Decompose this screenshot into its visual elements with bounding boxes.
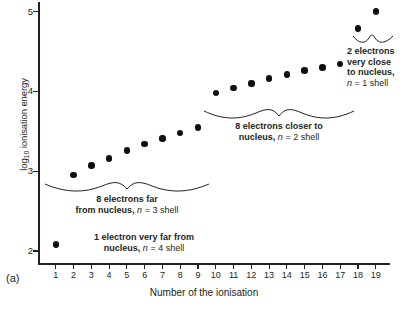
x-tick-label-9: 9 [190,270,206,280]
annotation-shell-n2: 8 electrons closer to nucleus, n = 2 she… [199,121,359,142]
annotation-shell-n3-line2-bold: from nucleus, [76,205,135,215]
x-tick-9 [197,264,198,269]
x-tick-label-2: 2 [66,270,82,280]
data-point-6 [141,141,147,147]
x-tick-5 [126,264,127,269]
x-tick-label-12: 12 [243,270,259,280]
annotation-shell-n4-line2-bold: nucleus, [104,243,141,253]
annotation-shell-n1: 2 electrons very close to nucleus, n = 1… [347,46,407,88]
y-axis-label-subscript: 10 [23,151,30,159]
x-tick-3 [91,264,92,269]
x-tick-7 [162,264,163,269]
data-point-4 [106,155,112,161]
x-tick-label-14: 14 [279,270,295,280]
x-tick-label-16: 16 [314,270,330,280]
x-tick-label-4: 4 [101,270,117,280]
x-tick-2 [73,264,74,269]
annotation-shell-n3: 8 electrons far from nucleus, n = 3 shel… [47,194,207,215]
y-tick-5 [33,11,39,12]
x-tick-label-15: 15 [297,270,313,280]
x-tick-16 [322,264,323,269]
data-point-17 [337,61,343,67]
data-point-13 [266,75,272,81]
y-tick-label-2: 2 [22,246,33,256]
brace-n2 [203,107,355,121]
x-tick-13 [269,264,270,269]
data-point-11 [230,85,236,91]
x-tick-17 [340,264,341,269]
x-tick-6 [144,264,145,269]
x-tick-10 [215,264,216,269]
annotation-shell-n4-line2-rest: = 4 shell [148,243,184,253]
x-tick-8 [180,264,181,269]
x-tick-18 [357,264,358,269]
data-point-16 [319,64,325,70]
x-tick-1 [55,264,56,269]
data-point-2 [70,172,76,178]
ionisation-energy-chart: log10 ionisation energy 2345 12345678910… [0,0,408,312]
x-tick-label-17: 17 [332,270,348,280]
x-axis-label: Number of the ionisation [0,287,408,298]
data-point-15 [301,67,307,73]
x-tick-12 [251,264,252,269]
y-tick-label-4: 4 [22,86,33,96]
data-point-1 [53,241,59,247]
caption-sliver [8,303,400,310]
y-tick-4 [33,91,39,92]
y-tick-3 [33,171,39,172]
x-tick-label-10: 10 [208,270,224,280]
annotation-shell-n4: 1 electron very far from nucleus, n = 4 … [64,232,224,253]
data-point-7 [159,135,165,141]
x-tick-11 [233,264,234,269]
x-tick-label-6: 6 [137,270,153,280]
annotation-shell-n2-line1: 8 electrons closer to [235,121,323,131]
x-tick-19 [375,264,376,269]
data-point-3 [88,162,94,168]
annotation-shell-n4-line1: 1 electron very far from [94,232,194,242]
x-tick-14 [286,264,287,269]
data-point-10 [213,90,219,96]
data-point-12 [248,80,254,86]
y-tick-2 [33,250,39,251]
brace-n3 [44,180,210,194]
annotation-shell-n2-line2-rest: = 2 shell [283,132,319,142]
data-point-19 [373,8,379,14]
x-tick-label-19: 19 [368,270,384,280]
annotation-shell-n2-line2-bold: nucleus, [239,132,276,142]
x-tick-label-13: 13 [261,270,277,280]
annotation-shell-n3-line1: 8 electrons far [96,194,158,204]
x-tick-label-11: 11 [226,270,242,280]
x-tick-label-8: 8 [172,270,188,280]
x-tick-label-5: 5 [119,270,135,280]
x-tick-label-3: 3 [83,270,99,280]
y-tick-label-3: 3 [22,166,33,176]
y-tick-label-5: 5 [22,7,33,17]
x-tick-15 [304,264,305,269]
x-tick-label-7: 7 [154,270,170,280]
x-tick-label-1: 1 [48,270,64,280]
annotation-shell-n1-line3: to nucleus, [347,67,395,77]
data-point-18 [355,25,361,31]
panel-label: (a) [6,272,19,284]
data-point-5 [124,147,130,153]
annotation-shell-n3-line2-rest: = 3 shell [142,205,178,215]
data-point-14 [284,71,290,77]
y-axis-line [38,2,40,264]
annotation-shell-n1-line2: very close [347,57,391,67]
x-tick-4 [109,264,110,269]
x-tick-label-18: 18 [350,270,366,280]
annotation-shell-n1-line1: 2 electrons [347,46,395,56]
brace-n1 [352,33,394,45]
data-point-8 [177,130,183,136]
annotation-shell-n1-line4-rest: = 1 shell [352,78,388,88]
